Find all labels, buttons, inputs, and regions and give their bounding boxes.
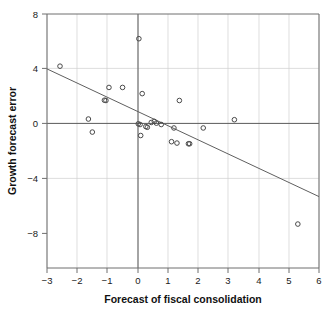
x-tick-label: 3	[225, 275, 230, 286]
x-tick-label: 5	[286, 275, 291, 286]
x-axis-title: Forecast of fiscal consolidation	[104, 293, 262, 305]
scatter-chart: 8 4 0 −4 −8 −3 −2 −1 0 1 2 3 4 5 6 Forec…	[0, 0, 332, 318]
x-tick-label: −3	[42, 275, 53, 286]
x-tick-label: −1	[102, 275, 113, 286]
x-tick-label: 2	[195, 275, 200, 286]
y-tick-label: 8	[33, 9, 38, 20]
y-axis-title: Growth forecast error	[6, 87, 18, 195]
y-tick-label: 0	[33, 118, 38, 129]
x-tick-label: 6	[316, 275, 321, 286]
x-tick-label: 0	[135, 275, 140, 286]
x-tick-label: 4	[256, 275, 261, 286]
y-tick-label: 4	[33, 63, 38, 74]
x-tick-label: −2	[72, 275, 83, 286]
x-tick-label: 1	[165, 275, 170, 286]
y-tick-label: −8	[27, 228, 38, 239]
y-tick-label: −4	[27, 173, 38, 184]
chart-background	[0, 0, 332, 318]
